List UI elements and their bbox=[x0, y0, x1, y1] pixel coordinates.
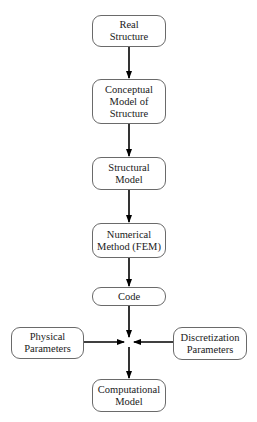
node-label: Physical Parameters bbox=[24, 331, 71, 355]
node-discretization-parameters: Discretization Parameters bbox=[173, 327, 247, 360]
node-physical-parameters: Physical Parameters bbox=[11, 327, 84, 359]
node-label: Structural Model bbox=[108, 162, 149, 186]
node-computational-model: Computational Model bbox=[92, 379, 166, 412]
node-label: Code bbox=[118, 291, 140, 303]
node-structural-model: Structural Model bbox=[92, 157, 166, 190]
node-numerical-method: Numerical Method (FEM) bbox=[92, 223, 166, 258]
node-conceptual-model: Conceptual Model of Structure bbox=[92, 79, 166, 124]
node-real-structure: Real Structure bbox=[92, 15, 166, 47]
node-label: Discretization Parameters bbox=[181, 332, 240, 356]
node-label: Computational Model bbox=[98, 384, 160, 408]
node-label: Real Structure bbox=[110, 19, 149, 43]
node-code: Code bbox=[92, 287, 166, 306]
node-label: Conceptual Model of Structure bbox=[105, 84, 153, 120]
node-label: Numerical Method (FEM) bbox=[97, 229, 161, 253]
